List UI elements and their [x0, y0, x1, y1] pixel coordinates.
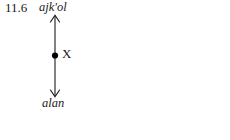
- reference-point-dot-icon: [52, 52, 58, 58]
- axis-label-down: alan: [42, 97, 64, 110]
- example-number: 11.6: [5, 1, 27, 15]
- reference-point-label: X: [62, 47, 71, 61]
- double-headed-arrow-icon: [40, 12, 80, 100]
- vertical-axis-diagram: [40, 12, 80, 100]
- figure-container: 11.6 ajk'ol X alan: [0, 0, 230, 140]
